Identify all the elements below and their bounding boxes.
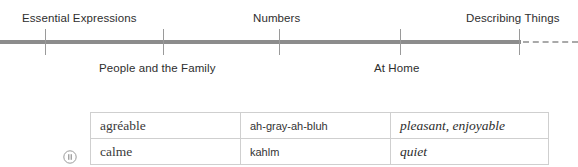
vocab-phonetic: ah-gray-ah-bluh <box>241 113 391 139</box>
vocab-meaning: pleasant, enjoyable <box>391 113 549 139</box>
pause-circle-icon[interactable] <box>63 150 77 164</box>
vocabulary-table: agréable ah-gray-ah-bluh pleasant, enjoy… <box>90 112 549 165</box>
vocab-term: agréable <box>91 113 241 139</box>
table-row: calme kahlm quiet <box>91 139 549 165</box>
vocab-meaning: quiet <box>391 139 549 165</box>
vocab-phonetic: kahlm <box>241 139 391 165</box>
timeline-tick-1 <box>45 29 46 55</box>
chapter-timeline: Essential Expressions People and the Fam… <box>0 0 578 82</box>
timeline-tick-2 <box>163 29 164 55</box>
timeline-tick-3 <box>279 29 280 55</box>
timeline-axis-dashed <box>523 41 578 43</box>
timeline-axis-solid <box>0 40 521 44</box>
vocab-term: calme <box>91 139 241 165</box>
table-row: agréable ah-gray-ah-bluh pleasant, enjoy… <box>91 113 549 139</box>
timeline-label-at-home: At Home <box>374 61 419 75</box>
timeline-label-describing-things: Describing Things <box>466 11 560 25</box>
timeline-label-numbers: Numbers <box>253 11 300 25</box>
timeline-tick-4 <box>400 29 401 55</box>
timeline-tick-5 <box>519 29 520 55</box>
timeline-label-people-and-the-family: People and the Family <box>99 61 216 75</box>
timeline-label-essential-expressions: Essential Expressions <box>22 11 137 25</box>
